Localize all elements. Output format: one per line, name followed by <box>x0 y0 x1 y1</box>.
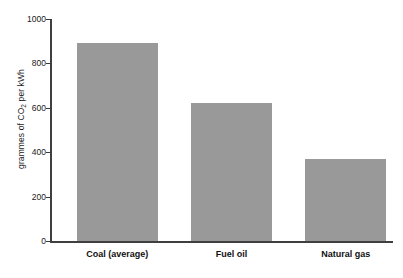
bar <box>191 103 272 241</box>
x-category-label: Natural gas <box>289 248 403 261</box>
y-tick-label: 200 <box>12 192 46 202</box>
y-tick-label: 400 <box>12 147 46 157</box>
y-tick-mark <box>46 152 50 153</box>
y-tick-label: 1000 <box>12 14 46 24</box>
y-tick-mark <box>46 197 50 198</box>
y-tick-mark <box>46 108 50 109</box>
x-axis-category-labels: Coal (average)Fuel oilNatural gas <box>50 248 393 264</box>
plot-area <box>50 19 393 241</box>
x-category-label: Fuel oil <box>174 248 288 261</box>
y-axis-tick-labels: 02004006008001000 <box>10 0 46 278</box>
x-axis-line <box>50 241 393 243</box>
bar <box>77 43 158 241</box>
x-category-label: Coal (average) <box>60 248 174 261</box>
bar-chart: grammes of CO2 per kWh 02004006008001000… <box>0 0 403 278</box>
y-tick-mark <box>46 19 50 20</box>
y-tick-mark <box>46 63 50 64</box>
y-tick-label: 600 <box>12 103 46 113</box>
y-tick-label: 800 <box>12 58 46 68</box>
bar <box>305 159 386 241</box>
y-tick-label: 0 <box>12 236 46 246</box>
y-tick-mark <box>46 241 50 242</box>
